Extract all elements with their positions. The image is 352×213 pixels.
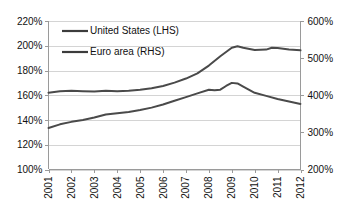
series-line-1: [49, 83, 301, 128]
x-axis-tick-label: 2001: [43, 176, 54, 199]
y-axis-left-tick-label: 220%: [17, 16, 43, 27]
x-axis-tick-label: 2012: [295, 176, 306, 199]
y-axis-right-tick-label: 400%: [308, 90, 334, 101]
x-axis-tick-label: 2002: [66, 176, 77, 199]
y-axis-right-tick-label: 200%: [308, 164, 334, 175]
y-axis-right-tick-label: 300%: [308, 127, 334, 138]
y-axis-right-labels: 200%300%400%500%600%: [308, 16, 334, 176]
x-axis-tick-label: 2009: [226, 176, 237, 199]
y-axis-left-tick-label: 200%: [17, 40, 43, 51]
chart-legend: United States (LHS)Euro area (RHS): [62, 25, 179, 57]
y-axis-left-labels: 100%120%140%160%180%200%220%: [17, 16, 43, 176]
y-axis-left: [45, 21, 49, 171]
x-axis: [49, 170, 302, 174]
gridlines: [49, 22, 301, 171]
y-axis-left-tick-label: 140%: [17, 115, 43, 126]
y-axis-right: [301, 21, 305, 171]
x-axis-tick-label: 2008: [203, 176, 214, 199]
y-axis-left-tick-label: 100%: [17, 164, 43, 175]
line-chart: 100%120%140%160%180%200%220% 200%300%400…: [0, 0, 352, 213]
y-axis-right-tick-label: 500%: [308, 53, 334, 64]
series-line-2: [49, 46, 301, 92]
x-axis-tick-label: 2003: [89, 176, 100, 199]
y-axis-right-tick-label: 600%: [308, 16, 334, 27]
x-axis-tick-label: 2011: [272, 176, 283, 198]
legend-label-2: Euro area (RHS): [90, 46, 164, 57]
y-axis-left-tick-label: 160%: [17, 90, 43, 101]
x-axis-tick-label: 2007: [180, 176, 191, 199]
legend-label-1: United States (LHS): [90, 25, 179, 36]
x-axis-tick-label: 2005: [135, 176, 146, 199]
y-axis-left-tick-label: 180%: [17, 65, 43, 76]
chart-container: 100%120%140%160%180%200%220% 200%300%400…: [0, 0, 352, 213]
y-axis-left-tick-label: 120%: [17, 139, 43, 150]
x-axis-labels: 2001200220032004200520062007200820092010…: [43, 176, 306, 199]
x-axis-tick-label: 2006: [158, 176, 169, 199]
data-series-group: [49, 46, 301, 128]
x-axis-tick-label: 2004: [112, 176, 123, 199]
x-axis-tick-label: 2010: [249, 176, 260, 199]
